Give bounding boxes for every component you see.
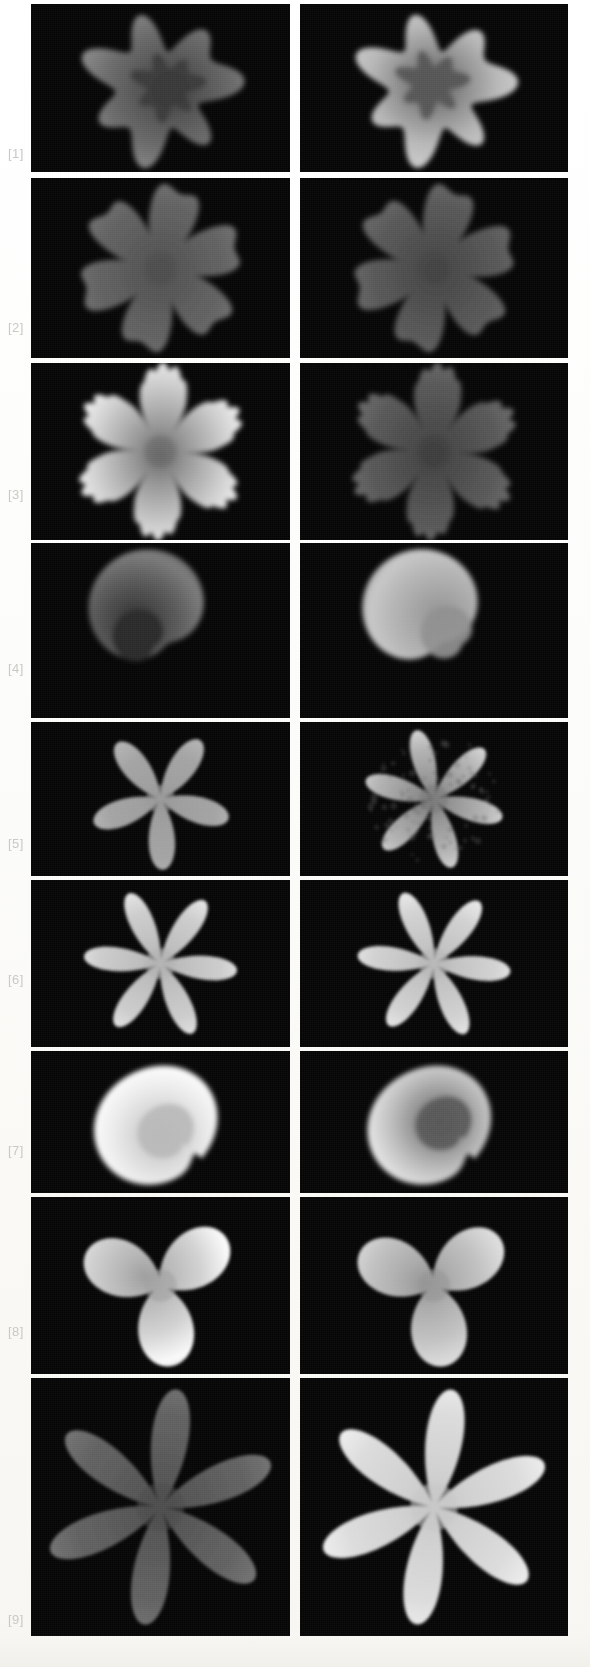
figure-row [0, 178, 590, 358]
figure-panel [31, 4, 290, 172]
row-label-3: [3] [8, 487, 24, 502]
figure-panel [300, 363, 568, 540]
figure-panel [300, 1051, 568, 1193]
figure-panel [31, 722, 290, 876]
figure-panel [300, 1197, 568, 1374]
row-label-5: [5] [8, 836, 24, 851]
figure-panel [300, 543, 568, 718]
row-label-4: [4] [8, 661, 24, 676]
figure-panel [300, 4, 568, 172]
figure-panel [300, 1378, 568, 1636]
figure-panel [31, 1378, 290, 1636]
figure-row [0, 543, 590, 718]
figure-panel [31, 1051, 290, 1193]
figure-panel [31, 1197, 290, 1374]
row-label-6: [6] [8, 972, 24, 987]
figure-panel [300, 178, 568, 358]
figure-row [0, 722, 590, 876]
figure-page: [1][2][3][4][5][6][7][8][9] [0, 0, 590, 1667]
figure-row [0, 363, 590, 540]
figure-panel [31, 543, 290, 718]
figure-panel [31, 880, 290, 1047]
figure-panel [300, 722, 568, 876]
row-label-9: [9] [8, 1612, 24, 1627]
figure-row [0, 1051, 590, 1193]
row-label-7: [7] [8, 1143, 24, 1158]
figure-panel [31, 178, 290, 358]
row-label-1: [1] [8, 146, 24, 161]
row-label-2: [2] [8, 320, 24, 335]
figure-panel [31, 363, 290, 540]
figure-row [0, 4, 590, 172]
figure-row [0, 880, 590, 1047]
panel-grid: [1][2][3][4][5][6][7][8][9] [0, 0, 590, 1667]
figure-row [0, 1197, 590, 1374]
row-label-8: [8] [8, 1324, 24, 1339]
figure-panel [300, 880, 568, 1047]
figure-row [0, 1378, 590, 1636]
